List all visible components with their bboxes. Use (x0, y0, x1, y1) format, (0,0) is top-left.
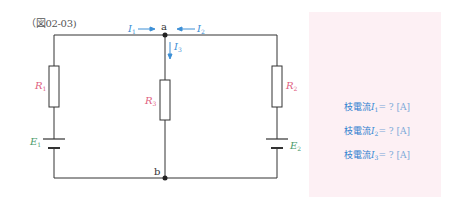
resistor-r1 (49, 66, 59, 107)
node-b-label: b (154, 166, 160, 177)
r1-label: R1 (34, 80, 46, 92)
answer-prefix: 枝電流 (344, 150, 371, 160)
i2-label: I2 (196, 23, 205, 35)
i2-arrowhead-icon (177, 27, 182, 31)
answer-list: 枝電流I1= ? [A] 枝電流I2= ? [A] 枝電流I3= ? [A] (344, 100, 410, 172)
e1-label: E1 (29, 136, 41, 148)
i1-label: I1 (127, 23, 136, 35)
node-b-dot (163, 176, 168, 181)
battery-e2 (266, 139, 288, 148)
r3-label: R3 (144, 95, 157, 107)
answer-i2: 枝電流I2= ? [A] (344, 124, 410, 148)
answer-i1: 枝電流I1= ? [A] (344, 100, 410, 124)
e2-label: E2 (289, 140, 301, 152)
resistor-r3 (160, 80, 170, 120)
answer-prefix: 枝電流 (344, 102, 371, 112)
node-a-label: a (161, 21, 167, 32)
answer-prefix: 枝電流 (344, 126, 371, 136)
i1-arrowhead-icon (150, 27, 155, 31)
resistor-r2 (272, 66, 282, 107)
battery-e1 (43, 139, 65, 148)
i3-arrowhead-icon (168, 54, 172, 59)
node-a-dot (163, 33, 168, 38)
r2-label: R2 (285, 80, 298, 92)
answer-i3: 枝電流I3= ? [A] (344, 148, 410, 172)
i3-label: I3 (173, 41, 182, 53)
